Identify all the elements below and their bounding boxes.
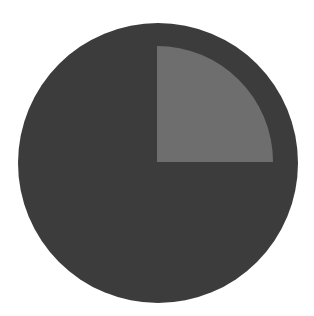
pie-chart <box>0 0 314 316</box>
